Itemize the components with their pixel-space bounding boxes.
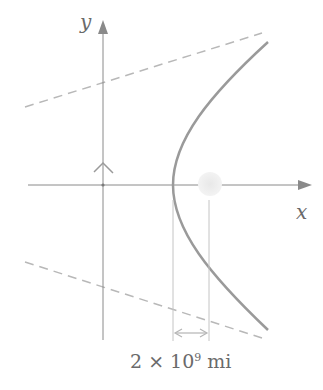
- asymptote-lower: [25, 262, 262, 338]
- asymptote-upper: [25, 33, 262, 107]
- distance-prefix: 2 × 10: [130, 350, 194, 372]
- x-axis-label: x: [296, 200, 307, 224]
- x-axis-arrow-icon: [298, 180, 312, 190]
- distance-label: 2 × 109 mi: [130, 350, 231, 372]
- y-axis-arrow-icon: [98, 20, 108, 34]
- hyperbola-diagram: [0, 0, 323, 390]
- y-axis-label: y: [80, 10, 91, 34]
- distance-unit: mi: [201, 350, 231, 372]
- origin-point: [101, 183, 104, 186]
- focus-sun-icon: [198, 172, 222, 196]
